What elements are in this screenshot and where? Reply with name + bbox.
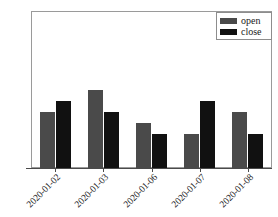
- bar-group: [136, 11, 167, 168]
- bar-close-2020-01-03[interactable]: [104, 112, 119, 168]
- y-axis: 3.663.683.703.723.743.763.783.80: [0, 0, 31, 179]
- bar-close-2020-01-07[interactable]: [200, 101, 215, 168]
- bar-close-2020-01-02[interactable]: [56, 101, 71, 168]
- bar-open-2020-01-06[interactable]: [136, 123, 151, 168]
- bar-open-2020-01-08[interactable]: [232, 112, 247, 168]
- legend-swatch-open-icon: [220, 18, 237, 24]
- bar-group: [88, 11, 119, 168]
- legend-swatch-close-icon: [220, 29, 237, 35]
- legend-label-close: close: [241, 26, 262, 37]
- bar-close-2020-01-08[interactable]: [248, 134, 263, 168]
- bar-open-2020-01-07[interactable]: [184, 134, 199, 168]
- bar-group: [184, 11, 215, 168]
- legend-item-open[interactable]: open: [220, 15, 268, 26]
- clipped-footer-strip: [0, 210, 278, 217]
- bar-open-2020-01-02[interactable]: [40, 112, 55, 168]
- legend-label-open: open: [241, 15, 260, 26]
- legend-item-close[interactable]: close: [220, 26, 268, 37]
- chart-legend[interactable]: open close: [216, 12, 272, 40]
- bar-open-2020-01-03[interactable]: [88, 90, 103, 169]
- bar-group: [40, 11, 71, 168]
- bar-chart: 3.663.683.703.723.743.763.783.80 2020-01…: [0, 0, 278, 217]
- bar-close-2020-01-06[interactable]: [152, 134, 167, 168]
